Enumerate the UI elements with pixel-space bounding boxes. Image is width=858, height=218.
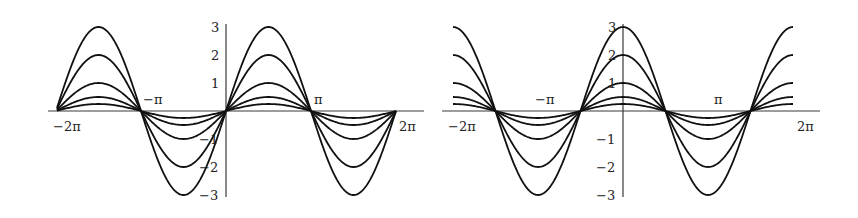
left-tick-ym3: −3 [199, 188, 218, 203]
left-tick-neg2pi: −2π [53, 119, 81, 134]
left-tick-2pi: 2π [399, 119, 416, 134]
right-tick-ym3: −3 [596, 188, 615, 203]
right-tick-y3: 3 [608, 20, 616, 35]
right-tick-ym1: −1 [596, 132, 615, 147]
right-tick-y1: 1 [608, 76, 616, 91]
right-tick-ym2: −2 [596, 160, 615, 175]
left-tick-negpi: −π [143, 92, 163, 107]
left-tick-ym2: −2 [199, 160, 218, 175]
right-tick-y2: 2 [608, 48, 616, 63]
left-tick-y3: 3 [211, 20, 219, 35]
left-tick-ym1: −1 [199, 132, 218, 147]
figure: −2π −π π 2π 3 2 1 −1 −2 −3 −2π −π π 2π 3… [0, 0, 858, 218]
right-tick-pi: π [714, 92, 723, 107]
right-tick-negpi: −π [535, 92, 555, 107]
right-tick-2pi: 2π [797, 119, 814, 134]
left-tick-y2: 2 [211, 48, 219, 63]
left-plot: −2π −π π 2π 3 2 1 −1 −2 −3 [48, 20, 424, 203]
right-tick-neg2pi: −2π [448, 119, 476, 134]
left-tick-pi: π [314, 92, 323, 107]
left-tick-y1: 1 [211, 76, 219, 91]
right-plot: −2π −π π 2π 3 2 1 −1 −2 −3 [442, 20, 820, 203]
